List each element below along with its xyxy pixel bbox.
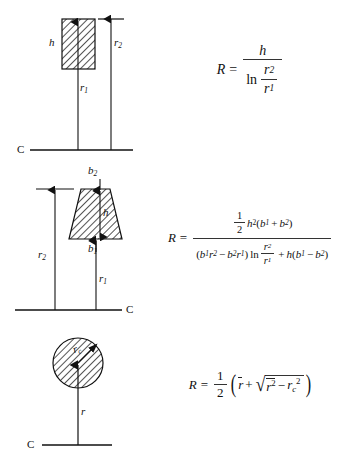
label-b2-trap: b2 (88, 164, 97, 178)
formula2-den-ln: ln (250, 248, 259, 260)
formula2-den-ratio-num: r2 (261, 240, 275, 253)
formula3-half: 1 2 (214, 368, 227, 402)
label-r1-rect: r1 (80, 81, 88, 95)
formula1-fraction: h ln r2 r1 (243, 42, 282, 98)
trapezoid-body (69, 189, 122, 239)
formula3-half-num: 1 (214, 368, 227, 384)
formula2-den-close2: ) (324, 248, 328, 260)
formula2-num-close: ) (289, 217, 293, 229)
label-centerline-rect: C (17, 143, 24, 155)
formula2-lhs: R (168, 231, 176, 245)
formula2-den-close: ) (245, 248, 249, 260)
formula3-rbar: r (238, 377, 243, 392)
formula3-open-paren: ( (230, 374, 235, 395)
formula2-denominator: ( b1 r2 − b2 r1 ) ln r2 r1 + h ( b1 − b2 (193, 239, 331, 269)
formula3-minus: − (278, 379, 285, 393)
label-r1-trap: r1 (99, 272, 107, 286)
formula3-lhs: R (189, 378, 197, 392)
label-centerline-trap: C (126, 303, 133, 315)
formula1-inner-num: r2 (261, 61, 277, 78)
formula2-den-ratio: r2 r1 (261, 240, 275, 268)
formula-rectangle: R = h ln r2 r1 (150, 42, 351, 98)
formula3-half-den: 2 (214, 385, 227, 401)
formula3-sqrt: √ r2 − rc2 (256, 375, 304, 394)
label-r-circle: r (81, 405, 85, 417)
label-r2-rect: r2 (114, 36, 122, 50)
formula2-den-minus2: − (307, 248, 313, 260)
formula1-ln: ln (246, 72, 257, 87)
formula3-rbar-sq: r2 (266, 378, 275, 394)
label-b1-trap: b1 (88, 242, 97, 256)
formula2-numerator: 1 2 h2 ( b1 + b2 ) (229, 208, 295, 238)
formula2-den-plus: + (278, 248, 284, 260)
formula2-half-num: 1 (234, 209, 245, 222)
formula1-inner-den: r1 (261, 80, 277, 97)
label-r2-trap: r2 (38, 248, 46, 262)
formula2-half-den: 2 (234, 223, 245, 236)
formula1-equals: = (229, 62, 237, 77)
formula1-denominator: ln r2 r1 (243, 60, 282, 98)
formula3-rc: rc2 (287, 377, 300, 394)
formula3-radical-sign: √ (256, 375, 266, 397)
formula2-den-minus: − (219, 248, 225, 260)
formula1-numerator: h (256, 42, 269, 59)
formula3-radicand: r2 − rc2 (265, 375, 303, 394)
label-h-trap: h (103, 206, 109, 218)
formula2-equals: = (180, 231, 187, 245)
formula-trapezoid: R = 1 2 h2 ( b1 + b2 ) ( b1 (150, 208, 351, 269)
formula2-half: 1 2 (234, 209, 245, 237)
formula-circle: R = 1 2 ( r + √ r2 − rc2 ) (150, 368, 351, 402)
formula1-lhs: R (217, 62, 226, 77)
label-h-rect: h (49, 36, 55, 48)
formula3-plus: + (245, 378, 252, 392)
formula1-inner-fraction: r2 r1 (261, 61, 277, 97)
formula2-fraction: 1 2 h2 ( b1 + b2 ) ( b1 r2 − b2 r1 ) (193, 208, 331, 269)
formula2-num-plus: + (271, 217, 277, 229)
formula3-close-paren: ) (305, 374, 310, 395)
formula3-equals: = (201, 378, 208, 392)
label-centerline-circle: C (27, 438, 34, 450)
formula2-den-ratio-den: r1 (261, 254, 275, 267)
